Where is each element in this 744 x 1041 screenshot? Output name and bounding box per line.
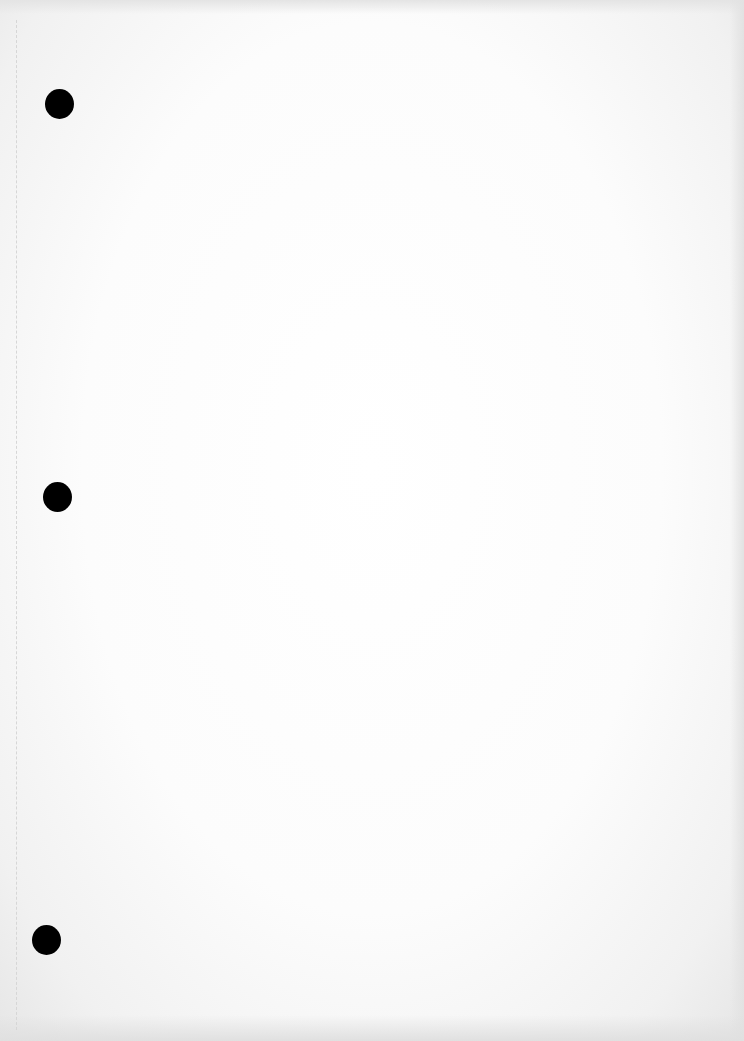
punch-hole-bottom bbox=[32, 925, 61, 955]
punch-hole-middle bbox=[43, 482, 72, 512]
punch-hole-top bbox=[45, 89, 74, 119]
scan-edge-shadow-top bbox=[0, 0, 744, 14]
margin-perforation-line bbox=[16, 20, 17, 1030]
scan-edge-shadow-bottom bbox=[0, 1015, 744, 1041]
scan-edge-shadow-right bbox=[730, 0, 744, 1041]
scanned-page bbox=[0, 0, 744, 1041]
